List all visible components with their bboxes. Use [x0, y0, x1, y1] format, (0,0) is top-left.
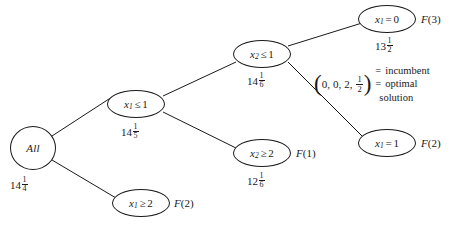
bound-fraction-x1-le-1: 15	[133, 123, 139, 140]
node-x2-le-1: x2≤1	[233, 40, 291, 68]
vector-fraction-denominator: 2	[356, 84, 362, 94]
node-x1-ge-2-operator: ≥	[138, 197, 147, 209]
node-x1-eq-1: x1=1	[358, 129, 416, 157]
bound-fraction-x2-le-1: 16	[259, 72, 265, 89]
node-all: All	[10, 126, 56, 170]
bound-fraction-x2-ge-2: 16	[259, 172, 265, 189]
bound-whole-x2-ge-2: 12	[247, 175, 258, 187]
bound-fraction-x1-eq-0: 12	[387, 37, 393, 54]
bound-whole-all: 14	[10, 179, 21, 191]
node-x1-eq-0-value: 0	[393, 13, 399, 25]
node-x2-le-1-operator: ≤	[259, 48, 268, 60]
vector-close-paren: )	[364, 74, 372, 94]
bound-numerator-x1-eq-0: 1	[387, 37, 393, 45]
bound-denominator-x2-le-1: 6	[259, 80, 265, 89]
node-x1-eq-0-operator: =	[384, 13, 393, 25]
fathom-label-x1-eq-1: F(2)	[421, 137, 441, 149]
vector-separator-2: ,	[350, 78, 353, 90]
node-all-label: All	[26, 142, 39, 154]
bound-fraction-all: 14	[22, 176, 28, 193]
incumbent-solution-vector: (0, 0, 2, 12)	[314, 74, 371, 94]
node-x2-le-1-subscript: 2	[255, 52, 259, 61]
bound-value-all: 1414	[10, 176, 28, 193]
fathom-label-x1-eq-0-name: F	[421, 13, 428, 25]
bound-value-x1-le-1: 1415	[121, 123, 139, 140]
bound-value-x1-eq-0: 1312	[375, 37, 393, 54]
bound-whole-x1-le-1: 14	[121, 126, 132, 138]
bound-whole-x1-eq-0: 13	[375, 40, 386, 52]
node-x1-ge-2-subscript: 1	[134, 201, 138, 210]
node-x1-le-1: x1≤1	[107, 90, 165, 118]
bound-denominator-x1-eq-0: 2	[387, 45, 393, 54]
node-x2-ge-2-subscript: 2	[255, 151, 259, 160]
incumbent-solution-annotation: (0, 0, 2, 12) =incumbent =optimal soluti…	[314, 64, 430, 104]
annotation-text-2: solution	[379, 91, 413, 104]
node-x2-le-1-value: 1	[268, 48, 274, 60]
vector-separator-0: ,	[327, 78, 330, 90]
tree-edge-root-to-x1le1	[52, 97, 112, 136]
annotation-line-0: =incumbent	[375, 64, 429, 77]
fathom-label-x1-eq-0: F(3)	[421, 13, 441, 25]
incumbent-annotation-lines: =incumbent =optimal solution	[375, 64, 429, 104]
tree-edge-root-to-x1ge2	[52, 160, 116, 198]
tree-edge-x2le1-to-x1eq0	[288, 23, 362, 46]
node-x1-le-1-value: 1	[142, 98, 148, 110]
annotation-text-0: incumbent	[385, 64, 429, 77]
tree-edge-x1le1-to-x2ge2	[163, 112, 236, 148]
bound-numerator-all: 1	[22, 176, 28, 184]
node-x1-le-1-subscript: 1	[129, 102, 133, 111]
annotation-equals-1: =	[375, 77, 381, 90]
tree-edges	[0, 0, 455, 225]
node-x1-eq-1-value: 1	[393, 137, 399, 149]
tree-edge-x1le1-to-x2le1	[163, 62, 236, 96]
node-x2-ge-2: x2≥2	[233, 139, 291, 167]
fathom-label-x1-ge-2: F(2)	[174, 197, 194, 209]
bound-denominator-all: 4	[22, 184, 28, 193]
bound-whole-x2-le-1: 14	[247, 75, 258, 87]
node-x1-ge-2: x1≥2	[112, 189, 170, 217]
vector-fraction-numerator: 1	[356, 75, 362, 84]
node-x1-eq-1-subscript: 1	[380, 141, 384, 150]
branch-and-bound-tree-figure: All 1414 x1≤1 1415 x1≥2 F(2) x2≤1 1416 x…	[0, 0, 455, 225]
fathom-label-x1-eq-1-name: F	[421, 137, 428, 149]
fathom-label-x1-ge-2-name: F	[174, 197, 181, 209]
bound-numerator-x2-ge-2: 1	[259, 172, 265, 180]
bound-numerator-x1-le-1: 1	[133, 123, 139, 131]
bound-denominator-x1-le-1: 5	[133, 131, 139, 140]
node-x1-eq-1-operator: =	[384, 137, 393, 149]
annotation-text-1: optimal	[385, 77, 417, 90]
bound-denominator-x2-ge-2: 6	[259, 180, 265, 189]
node-x2-ge-2-value: 2	[268, 147, 274, 159]
bound-value-x2-le-1: 1416	[247, 72, 265, 89]
vector-separator-1: ,	[338, 78, 341, 90]
bound-numerator-x2-le-1: 1	[259, 72, 265, 80]
annotation-line-1: =optimal	[375, 77, 429, 90]
node-x1-eq-0: x1=0	[358, 5, 416, 33]
fathom-label-x2-ge-2: F(1)	[296, 147, 316, 159]
node-x1-le-1-operator: ≤	[133, 98, 142, 110]
annotation-line-2: solution	[375, 91, 429, 104]
vector-open-paren: (	[314, 74, 322, 94]
node-x2-ge-2-operator: ≥	[259, 147, 268, 159]
node-x1-ge-2-value: 2	[147, 197, 153, 209]
annotation-equals-0: =	[375, 64, 381, 77]
fathom-label-x2-ge-2-name: F	[296, 147, 303, 159]
node-x1-eq-0-subscript: 1	[380, 17, 384, 26]
vector-component-fraction: 12	[356, 75, 362, 94]
bound-value-x2-ge-2: 1216	[247, 172, 265, 189]
